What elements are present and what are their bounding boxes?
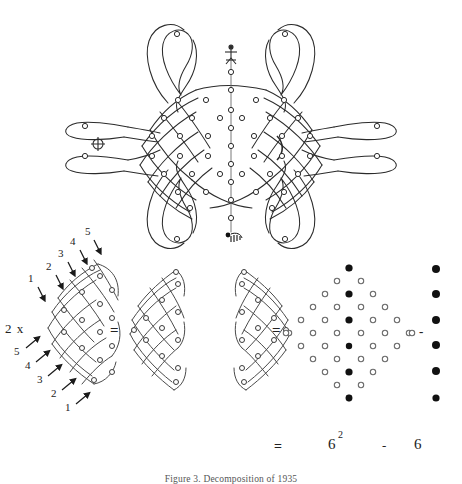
top-arrow-label-1: 1 [28,273,34,284]
operator-equals-1: = [110,323,119,338]
equation-term-base: 6 [328,437,336,452]
bottom-arrow-label-1: 1 [65,402,71,413]
operator-minus: - [419,325,423,338]
operator-equals-2: = [272,323,281,338]
top-arrow-label-3: 3 [58,248,64,259]
equation-equals: = [274,440,282,454]
bottom-arrow-label-2: 2 [51,388,57,399]
bottom-arrow-label-3: 3 [37,374,43,385]
equation-term-exponent: 2 [338,430,343,440]
figure-caption: Figure 3. Decomposition of 1935 [0,474,462,484]
bottom-arrow-label-4: 4 [25,360,31,371]
multiplier-label: 2 x [5,322,24,335]
equation-minus: - [382,439,386,452]
bottom-arrow-label-5: 5 [14,346,20,357]
top-arrow-label-2: 2 [46,261,52,272]
top-arrow-label-5: 5 [85,226,91,237]
equation-subtrahend: 6 [414,437,422,452]
top-arrow-label-4: 4 [70,236,76,247]
